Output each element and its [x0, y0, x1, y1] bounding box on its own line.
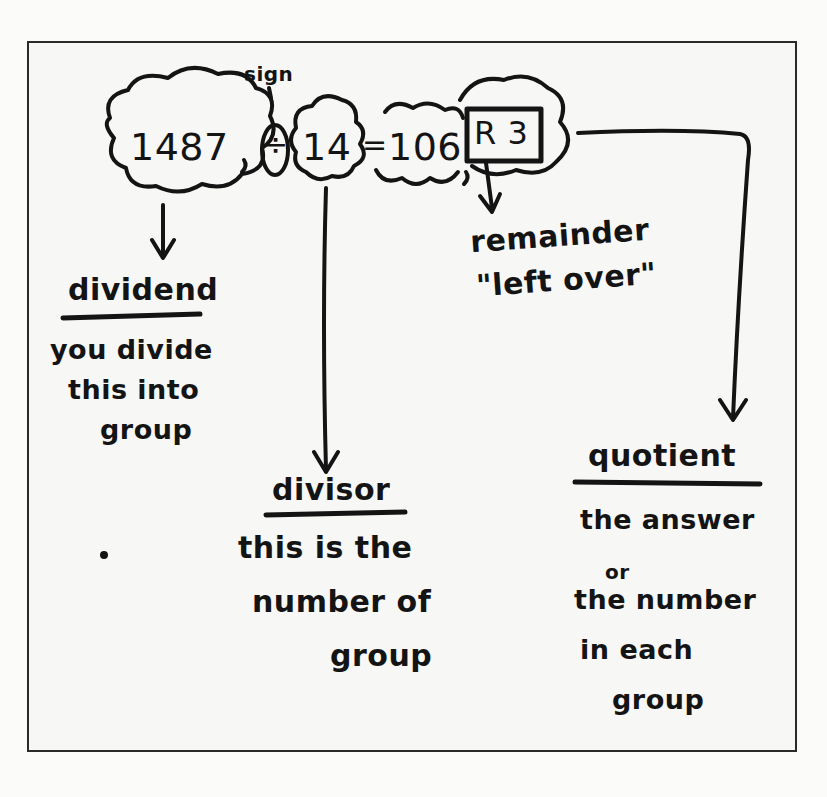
- quotient-number: 106: [388, 125, 462, 169]
- dividend-number: 1487: [130, 125, 229, 169]
- equals-sign: =: [362, 127, 388, 162]
- dividend-arrow-icon: [152, 205, 174, 258]
- quotient-cloud-icon: [385, 103, 463, 118]
- remainder-value: R 3: [474, 114, 528, 152]
- quotient-term: quotient: [588, 438, 736, 473]
- divisor-line-2: number of: [252, 582, 431, 622]
- divisor-term: divisor: [272, 472, 390, 507]
- dividend-term: dividend: [68, 272, 218, 307]
- quotient-line-3: the number: [574, 580, 756, 620]
- sign-annotation: sign: [244, 62, 293, 86]
- divisor-line-3: group: [330, 636, 432, 676]
- dividend-line-2: this into: [68, 370, 199, 410]
- quotient-line-4: in each: [580, 630, 693, 670]
- quotient-line-1: the answer: [580, 500, 755, 540]
- quotient-line-5: group: [612, 680, 704, 720]
- divisor-arrow-icon: [314, 188, 338, 472]
- divisor-line-1: this is the: [238, 528, 412, 568]
- dividend-line-1: you divide: [50, 330, 213, 370]
- divisor-number: 14: [302, 125, 351, 169]
- division-sign: ÷: [263, 127, 289, 162]
- dividend-line-3: group: [100, 410, 192, 450]
